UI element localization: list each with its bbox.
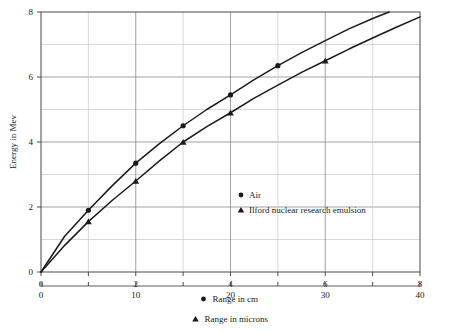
chart-canvas: 02468 02468 010203040 AirIlford nuclear … [0, 0, 456, 333]
x-axis-title-secondary: Range in microns [205, 314, 269, 324]
y-tick-label: 6 [29, 72, 34, 82]
x-title-marker-circle [201, 297, 206, 302]
data-point-circle [133, 161, 138, 166]
data-point-circle [86, 208, 91, 213]
legend-marker-circle [239, 193, 244, 198]
energy-range-chart: 02468 02468 010203040 AirIlford nuclear … [0, 0, 456, 333]
y-tick-label: 2 [29, 202, 34, 212]
legend-label: Air [249, 190, 261, 200]
y-tick-label: 8 [29, 7, 34, 17]
legend-label: Ilford nuclear research emulsion [249, 205, 366, 215]
x-tick-label-secondary: 40 [416, 290, 426, 300]
data-point-circle [228, 92, 233, 97]
y-tick-label: 4 [29, 137, 34, 147]
x-tick-label-secondary: 10 [131, 290, 141, 300]
data-point-circle [275, 63, 280, 68]
data-point-circle [181, 123, 186, 128]
x-tick-label-secondary: 0 [39, 290, 44, 300]
x-tick-label-secondary: 30 [321, 290, 331, 300]
x-axis-title-primary: Range in cm [213, 294, 259, 304]
y-tick-label: 0 [29, 267, 34, 277]
y-axis-title: Energy in Mev [8, 115, 18, 169]
